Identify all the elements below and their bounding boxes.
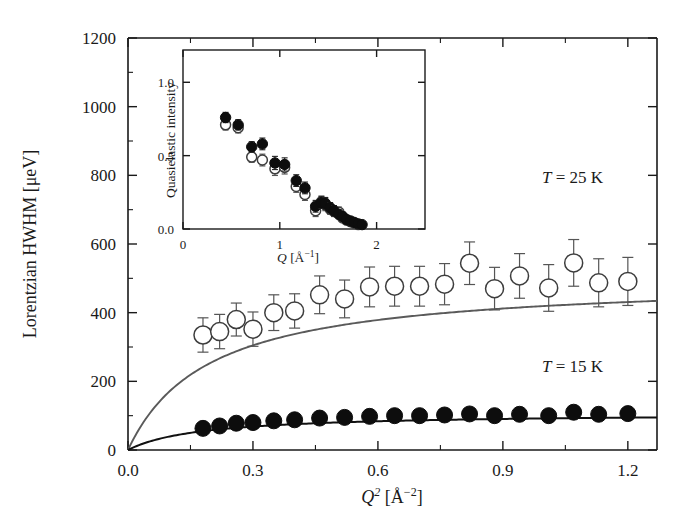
data-point-25k: [619, 272, 637, 290]
data-point-25k: [590, 274, 608, 292]
main-y-tick-label: 0: [108, 441, 117, 460]
data-point-25k: [265, 304, 283, 322]
data-point-15k: [566, 404, 582, 420]
main-y-axis-label: Lorentzian HWHM [μeV]: [20, 150, 40, 339]
inset-data-point-open: [247, 152, 257, 162]
data-point-15k: [487, 408, 503, 424]
inset-data-point-filled: [279, 159, 289, 169]
data-point-25k: [336, 290, 354, 308]
figure-container: 0200400600800100012000.00.30.60.91.2 Lor…: [0, 0, 688, 531]
inset-x-tick-label: 0: [180, 237, 187, 252]
inset-data-point-filled: [357, 219, 367, 229]
data-point-25k: [244, 320, 262, 338]
data-point-25k: [461, 254, 479, 272]
data-point-15k: [287, 412, 303, 428]
main-x-tick-label: 0.0: [117, 461, 138, 480]
data-point-15k: [195, 420, 211, 436]
main-x-tick-label: 0.6: [367, 461, 388, 480]
data-point-15k: [412, 408, 428, 424]
data-point-25k: [227, 311, 245, 329]
inset-data-point-filled: [257, 139, 267, 149]
data-point-15k: [437, 407, 453, 423]
main-x-tick-label: 0.9: [492, 461, 513, 480]
inset-data-point-filled: [247, 142, 257, 152]
data-point-25k: [386, 277, 404, 295]
data-point-15k: [245, 415, 261, 431]
inset-data-point-filled: [220, 112, 230, 122]
data-point-15k: [266, 413, 282, 429]
data-point-15k: [620, 406, 636, 422]
inset-frame: [183, 50, 425, 229]
main-y-tick-label: 600: [91, 235, 117, 254]
data-point-15k: [228, 415, 244, 431]
data-point-25k: [194, 326, 212, 344]
data-point-15k: [387, 408, 403, 424]
data-point-15k: [362, 408, 378, 424]
inset-data-point-open: [257, 155, 267, 165]
main-y-tick-label: 200: [91, 372, 117, 391]
data-point-15k: [462, 406, 478, 422]
data-point-15k: [512, 406, 528, 422]
main-y-tick-label: 1000: [82, 98, 116, 117]
data-point-25k: [565, 254, 583, 272]
data-point-15k: [337, 409, 353, 425]
main-x-tick-label: 1.2: [617, 461, 638, 480]
inset-data-point-filled: [300, 183, 310, 193]
inset-y-tick-label: 0.0: [158, 222, 174, 237]
data-point-25k: [361, 278, 379, 296]
main-x-tick-label: 0.3: [242, 461, 263, 480]
annotation-25k: T = 25 K: [542, 168, 604, 187]
data-point-25k: [411, 277, 429, 295]
main-y-tick-label: 800: [91, 166, 117, 185]
main-y-tick-label: 400: [91, 304, 117, 323]
data-point-15k: [591, 406, 607, 422]
data-point-25k: [511, 267, 529, 285]
data-point-25k: [311, 286, 329, 304]
inset-data-point-filled: [233, 120, 243, 130]
data-point-25k: [540, 279, 558, 297]
inset-y-axis-label: Quasielastic intensity: [163, 82, 178, 198]
data-point-25k: [211, 323, 229, 341]
data-point-25k: [436, 275, 454, 293]
data-point-15k: [212, 418, 228, 434]
chart-svg: 0200400600800100012000.00.30.60.91.2 Lor…: [0, 0, 688, 531]
inset-x-tick-label: 2: [373, 237, 380, 252]
main-y-tick-label: 1200: [82, 29, 116, 48]
data-point-25k: [486, 280, 504, 298]
inset-data-point-filled: [270, 158, 280, 168]
annotation-15k: T = 15 K: [542, 357, 604, 376]
data-point-25k: [286, 302, 304, 320]
inset-data-point-filled: [291, 175, 301, 185]
data-point-15k: [312, 410, 328, 426]
data-point-15k: [541, 408, 557, 424]
